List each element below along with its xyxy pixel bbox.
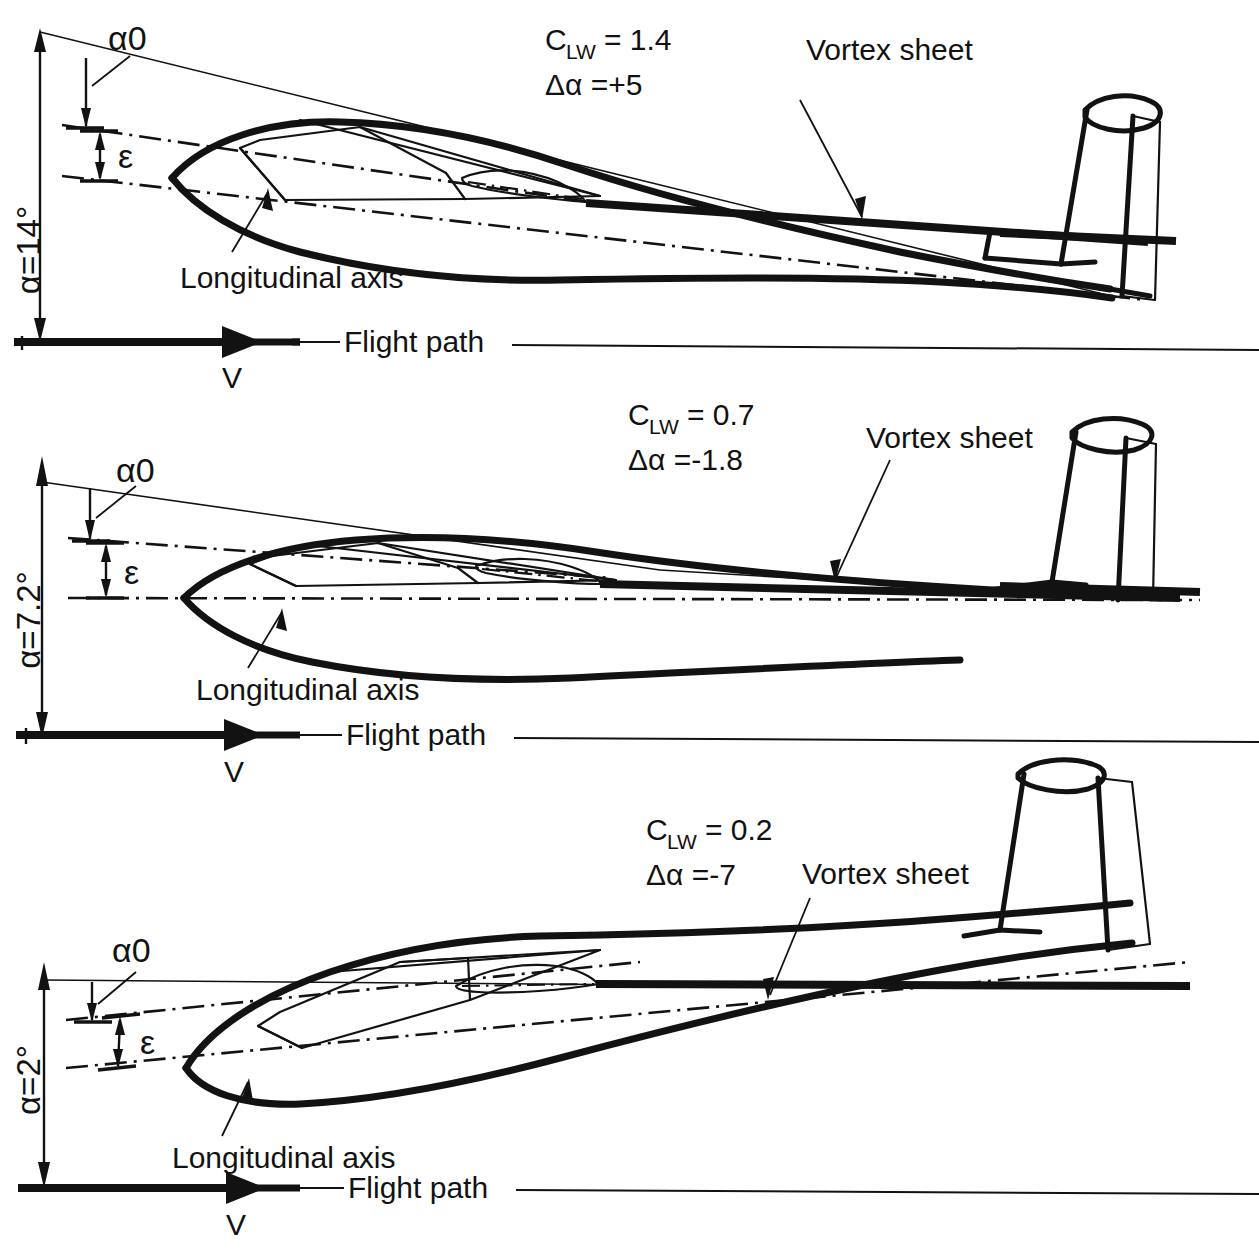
clw-symbol: C [545, 23, 567, 56]
flight-path-label: Flight path [346, 718, 486, 751]
vortex-sheet-label: Vortex sheet [802, 857, 969, 890]
clw-symbol: C [628, 398, 650, 431]
clw-value: = 0.7 [687, 398, 755, 431]
epsilon-label: ε [124, 553, 139, 591]
longitudinal-axis-label: Longitudinal axis [180, 261, 404, 294]
alpha-value-label: α=2° [10, 1045, 47, 1115]
clw-value: = 1.4 [604, 23, 672, 56]
flight-path-label: Flight path [348, 1171, 488, 1204]
fin-root-fairing [1000, 930, 1040, 932]
epsilon-label: ε [118, 137, 133, 175]
vortex-sheet-label: Vortex sheet [806, 33, 973, 66]
fin-root-fairing [1061, 262, 1095, 264]
alpha-value-label: α=7.2° [10, 571, 47, 668]
alpha0-label: α0 [108, 19, 147, 57]
alpha-value-label: α=14° [10, 206, 47, 294]
flight-path-label: Flight path [344, 325, 484, 358]
aerodynamics-figure: α=14° α0 ε [0, 0, 1259, 1249]
longitudinal-axis-label: Longitudinal axis [196, 673, 420, 706]
clw-subscript: LW [649, 415, 679, 438]
delta-alpha-label: Δα =-7 [646, 858, 736, 891]
vortex-sheet-line [596, 984, 1190, 986]
epsilon-label: ε [140, 1023, 155, 1061]
alpha0-label: α0 [112, 931, 151, 969]
velocity-label: V [226, 1208, 246, 1241]
clw-value: = 0.2 [705, 813, 773, 846]
clw-subscript: LW [566, 40, 596, 63]
delta-alpha-label: Δα =-1.8 [628, 443, 743, 476]
vortex-sheet-label: Vortex sheet [866, 421, 1033, 454]
clw-symbol: C [646, 813, 668, 846]
clw-subscript: LW [667, 830, 697, 853]
velocity-label: V [222, 361, 242, 394]
longitudinal-axis-label: Longitudinal axis [172, 1141, 396, 1174]
delta-alpha-label: Δα =+5 [545, 68, 642, 101]
velocity-label: V [224, 755, 244, 788]
alpha0-label: α0 [116, 451, 155, 489]
